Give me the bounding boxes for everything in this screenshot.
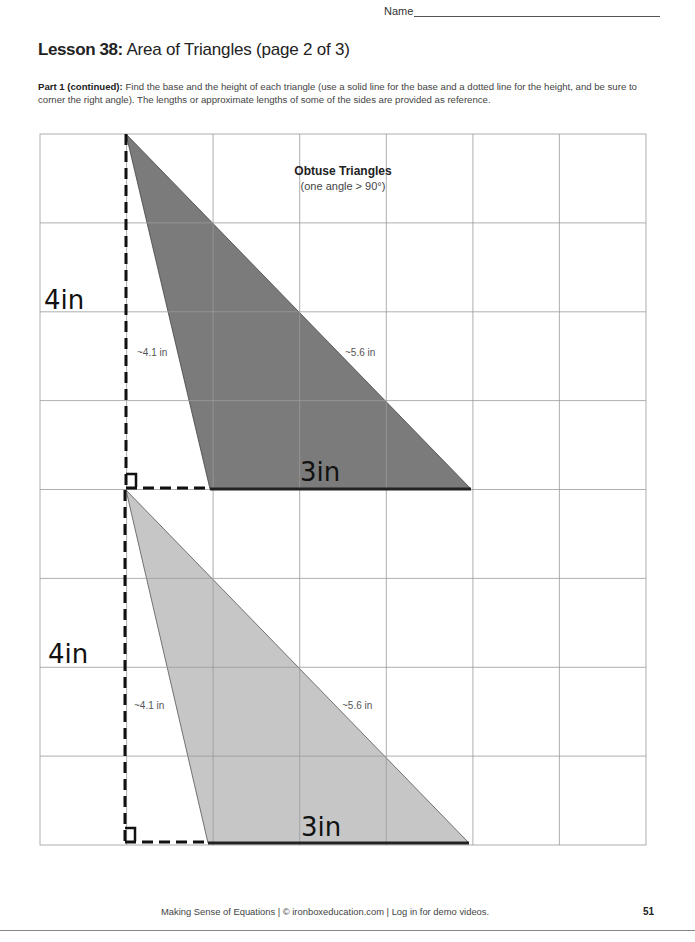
grid-subheading: (one angle > 90°) [301, 180, 386, 192]
page-number: 51 [643, 906, 654, 917]
triangle-2-side-b-label: ~5.6 in [342, 700, 372, 711]
triangle-1-side-b-label: ~5.6 in [345, 347, 375, 358]
triangle-2-light [126, 490, 469, 843]
footer-divider [0, 930, 695, 931]
triangle-1-height-label: 4in [44, 285, 84, 315]
triangle-2-base-label: 3in [301, 812, 341, 842]
triangle-2-height-label: 4in [48, 639, 88, 669]
triangle-grid: Obtuse Triangles (one angle > 90°) 4in 3… [0, 0, 695, 942]
grid-heading: Obtuse Triangles [294, 164, 392, 178]
triangle-1-side-a-label: ~4.1 in [137, 347, 167, 358]
triangle-2-side-a-label: ~4.1 in [134, 700, 164, 711]
footer-text: Making Sense of Equations | © ironboxedu… [161, 906, 489, 917]
triangle-1-base-label: 3in [300, 457, 340, 487]
